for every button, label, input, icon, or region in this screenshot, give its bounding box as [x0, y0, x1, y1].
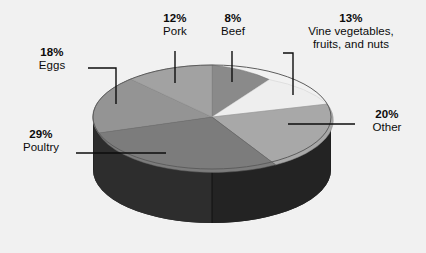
- pie-label-eggs: 18% Eggs: [16, 46, 88, 72]
- pie-label-beef-name: Beef: [205, 25, 261, 38]
- pie-label-beef-value: 8%: [205, 12, 261, 25]
- pie-label-pork-name: Pork: [145, 25, 205, 38]
- pie-label-beef: 8% Beef: [205, 12, 261, 38]
- pie-label-pork: 12% Pork: [145, 12, 205, 38]
- pie-label-other-value: 20%: [357, 108, 417, 121]
- pie-label-poultry: 29% Poultry: [2, 128, 80, 154]
- pie-label-other: 20% Other: [357, 108, 417, 134]
- pie-label-poultry-name: Poultry: [2, 141, 80, 154]
- pie-label-vine-vegetables-name-line1: Vine vegetables,: [278, 25, 424, 38]
- pie-label-vine-vegetables-name-line2: fruits, and nuts: [278, 38, 424, 51]
- pie-label-vine-vegetables: 13% Vine vegetables, fruits, and nuts: [278, 12, 424, 51]
- pie-label-eggs-name: Eggs: [16, 59, 88, 72]
- pie-chart-figure: 12% Pork 8% Beef 13% Vine vegetables, fr…: [0, 0, 426, 253]
- pie-label-other-name: Other: [357, 121, 417, 134]
- pie-label-poultry-value: 29%: [2, 128, 80, 141]
- pie-label-pork-value: 12%: [145, 12, 205, 25]
- pie-label-vine-vegetables-value: 13%: [278, 12, 424, 25]
- pie-label-eggs-value: 18%: [16, 46, 88, 59]
- pie-top-face: [93, 65, 334, 172]
